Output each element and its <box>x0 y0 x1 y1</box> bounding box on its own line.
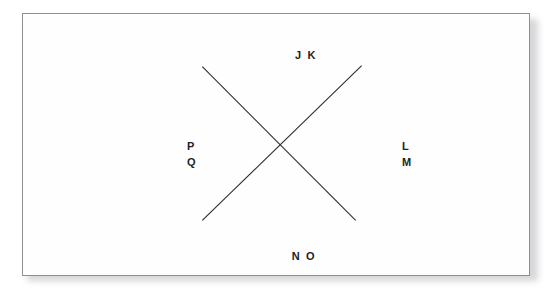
x-crossing-diagram <box>23 14 529 275</box>
label-right-l: L <box>402 140 410 153</box>
label-top-jk: J K <box>295 49 317 62</box>
label-left-p: P <box>187 140 196 153</box>
label-right-m: M <box>402 156 413 169</box>
label-bottom-no: N O <box>292 250 316 263</box>
figure-page: J K N O P Q L M <box>0 0 555 290</box>
figure-frame: J K N O P Q L M <box>22 13 530 276</box>
line-top-right-to-bottom-left <box>202 66 361 221</box>
label-left-q: Q <box>187 156 197 169</box>
